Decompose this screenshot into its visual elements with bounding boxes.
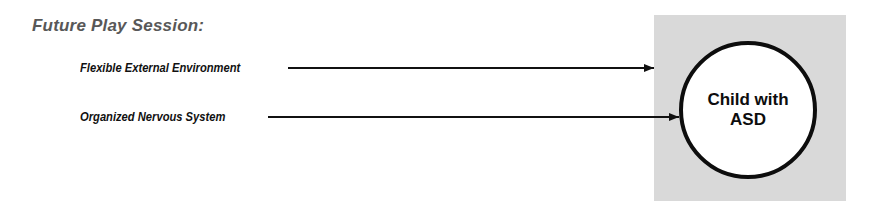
arrows-layer [0,0,872,209]
